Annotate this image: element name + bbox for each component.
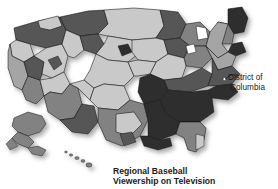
us-television-market-map: District of Columbia Regional Baseball V…	[0, 0, 278, 189]
dc-label-line-2: Columbia	[228, 83, 265, 92]
inset-alaska	[6, 112, 46, 156]
region-central-plains	[84, 54, 134, 110]
region-florida	[176, 122, 206, 152]
district-of-columbia-callout-label: District of Columbia	[228, 73, 265, 92]
map-caption: Regional Baseball Viewership on Televisi…	[113, 166, 215, 186]
map-graphic	[0, 0, 278, 189]
map-figure-page: District of Columbia Regional Baseball V…	[0, 0, 278, 189]
caption-line-2: Viewership on Television	[113, 176, 215, 186]
caption-line-1: Regional Baseball	[113, 166, 215, 176]
inset-hawaii	[65, 151, 92, 167]
map-landmass-group	[6, 7, 248, 167]
dc-label-line-1: District of	[228, 73, 263, 82]
